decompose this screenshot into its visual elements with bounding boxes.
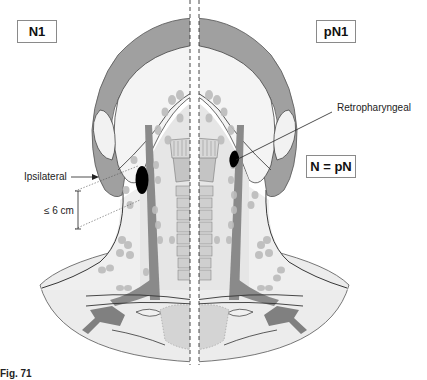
left-head-neck-illustration: [40, 18, 194, 362]
neck-lymph-node-diagram: [0, 0, 427, 380]
n1-label: N1: [29, 24, 46, 39]
n-equals-pn-box: N = pN: [306, 155, 356, 178]
right-head-neck-illustration: [195, 18, 349, 362]
retropharyngeal-label: Retropharyngeal: [337, 102, 411, 113]
n-equals-pn-label: N = pN: [310, 159, 352, 174]
n1-label-box: N1: [17, 20, 57, 43]
size-limit-label: ≤ 6 cm: [44, 205, 74, 216]
pn1-label-box: pN1: [316, 20, 356, 43]
ipsilateral-label: Ipsilateral: [24, 171, 67, 182]
figure-caption: Fig. 71: [0, 368, 32, 379]
metastatic-node-ipsilateral: [136, 166, 149, 194]
pn1-label: pN1: [324, 24, 349, 39]
